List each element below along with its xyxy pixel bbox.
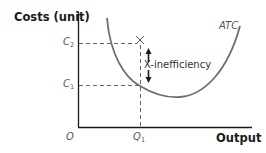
c1-subscript: 1 (70, 83, 74, 91)
origin-label: O (66, 131, 74, 142)
c2-subscript: 2 (70, 41, 74, 49)
y-axis-label: Costs (unit) (14, 10, 90, 24)
q1-letter: Q (133, 131, 141, 142)
q1-label: Q1 (133, 131, 145, 144)
x-marker-icon (136, 36, 144, 44)
x-inefficiency-diagram: Costs (unit) Output O C2 C1 Q1 ATC X-ine… (0, 0, 266, 153)
atc-label: ATC (219, 20, 238, 31)
x-axis-label: Output (216, 131, 261, 145)
c1-label: C1 (63, 78, 74, 91)
c2-label: C2 (63, 36, 74, 49)
c2-letter: C (63, 36, 70, 47)
c1-letter: C (63, 78, 70, 89)
q1-subscript: 1 (141, 136, 145, 144)
arrow-down-icon (146, 70, 152, 83)
x-inefficiency-label: X-inefficiency (144, 59, 211, 70)
